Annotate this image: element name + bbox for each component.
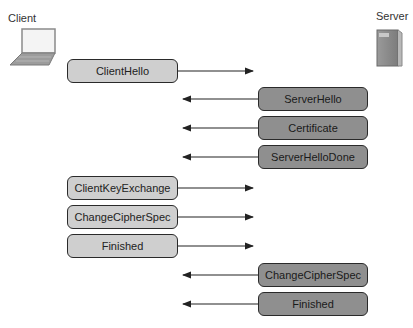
server-tower-icon <box>377 30 402 66</box>
client-message-box: Finished <box>67 234 178 258</box>
server-message-box: Finished <box>258 292 368 316</box>
laptop-icon <box>10 29 55 65</box>
server-message-box: ChangeCipherSpec <box>258 263 368 287</box>
client-message-box: ClientKeyExchange <box>67 176 178 200</box>
message-label: ClientKeyExchange <box>74 182 170 194</box>
message-arrows <box>178 71 258 304</box>
message-label: ServerHello <box>284 93 341 105</box>
client-message-box: ClientHello <box>67 59 178 83</box>
server-message-box: ServerHelloDone <box>258 145 368 169</box>
server-message-box: Certificate <box>258 116 368 140</box>
message-label: ClientHello <box>96 65 149 77</box>
client-message-box: ChangeCipherSpec <box>67 205 178 229</box>
message-label: Certificate <box>288 122 338 134</box>
message-label: ChangeCipherSpec <box>74 211 170 223</box>
message-label: ServerHelloDone <box>271 151 355 163</box>
message-label: Finished <box>102 240 144 252</box>
server-message-box: ServerHello <box>258 87 368 111</box>
message-label: ChangeCipherSpec <box>265 269 361 281</box>
message-label: Finished <box>292 298 334 310</box>
